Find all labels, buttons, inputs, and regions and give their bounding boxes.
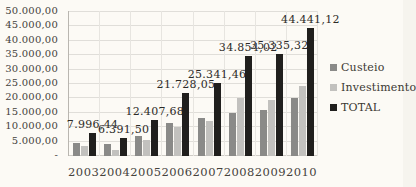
bar-total-2006 [182,93,189,156]
bar-total-2003 [89,133,96,156]
gridline-vertical [255,11,256,156]
x-tick-label-2007: 2007 [193,165,224,179]
bar-investimento-2005 [143,140,150,156]
legend-swatch-icon [330,104,337,111]
bar-custeio-2007 [198,118,205,156]
bar-custeio-2009 [260,110,267,156]
gridline-vertical [224,11,225,156]
x-tick-label-2005: 2005 [130,165,161,179]
legend-label: Custeio [341,61,385,74]
bar-custeio-2010 [291,98,298,156]
bar-total-2007 [214,83,221,156]
y-tick-label: 5.000,00 [0,135,58,147]
legend-swatch-icon [330,64,337,71]
legend-label: Investimento [341,81,416,94]
x-tick-label-2003: 2003 [68,165,99,179]
bar-total-2005 [151,120,158,156]
bar-investimento-2008 [237,98,244,156]
x-tick-label-2010: 2010 [286,165,317,179]
gridline-vertical [317,11,318,156]
y-tick-label: 10.000,00 [0,120,58,132]
bar-total-2009 [276,54,283,156]
legend-item-total: TOTAL [330,101,416,113]
bar-investimento-2009 [268,100,275,156]
legend-label: TOTAL [341,101,380,114]
x-tick-label-2009: 2009 [255,165,286,179]
bar-custeio-2004 [104,144,111,156]
plot-area: 7.996,446.391,5012.407,6821.728,0525.341… [68,11,318,156]
bar-investimento-2003 [81,146,88,156]
legend: CusteioInvestimentoTOTAL [330,61,416,121]
y-tick-label: 15.000,00 [0,106,58,118]
bar-investimento-2006 [174,127,181,156]
y-tick-label: 30.000,00 [0,63,58,75]
bar-custeio-2005 [135,136,142,156]
y-tick-label: 20.000,00 [0,91,58,103]
y-tick-label: 45.000,00 [0,19,58,31]
data-label-total-2007: 25.341,46 [188,68,247,81]
bar-custeio-2003 [73,143,80,156]
data-label-total-2010: 44.441,12 [281,13,340,26]
y-tick-label: 50.000,00 [0,5,58,17]
data-label-total-2005: 12.407,68 [125,105,184,118]
bar-total-2004 [120,138,127,156]
y-tick-label: - [0,149,58,161]
bar-custeio-2008 [229,113,236,156]
x-tick-label-2008: 2008 [224,165,255,179]
gridline-horizontal [69,11,318,12]
gridline-vertical [286,11,287,156]
x-tick-label-2004: 2004 [99,165,130,179]
bar-total-2010 [307,28,314,156]
bar-investimento-2007 [206,121,213,156]
data-label-total-2009: 35.335,32 [250,39,309,52]
bar-investimento-2004 [112,150,119,156]
bar-custeio-2006 [166,123,173,156]
bar-investimento-2010 [299,86,306,156]
y-tick-label: 40.000,00 [0,34,58,46]
legend-item-custeio: Custeio [330,61,416,73]
legend-swatch-icon [330,84,337,91]
bar-total-2008 [245,56,252,156]
y-tick-label: 35.000,00 [0,48,58,60]
data-label-total-2004: 6.391,50 [98,123,149,136]
legend-item-investimento: Investimento [330,81,416,93]
x-tick-label-2006: 2006 [161,165,192,179]
y-tick-label: 25.000,00 [0,77,58,89]
